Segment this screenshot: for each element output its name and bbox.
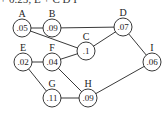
node-value: .02 <box>17 57 28 67</box>
node-label: I <box>150 42 153 53</box>
node-label: B <box>49 8 56 19</box>
node-label: C <box>83 31 90 42</box>
node-value: .11 <box>47 93 58 103</box>
node-value: .1 <box>83 46 90 56</box>
node-label: F <box>49 42 55 53</box>
node-label: A <box>18 8 26 19</box>
node-label: E <box>20 42 26 53</box>
node-C: .1C <box>77 31 95 60</box>
node-E: .02E <box>14 42 32 71</box>
node-value: .05 <box>16 23 28 33</box>
node-G: .11G <box>43 78 61 107</box>
node-value: .09 <box>46 23 58 33</box>
node-label: D <box>119 7 126 18</box>
edge-H-I <box>88 62 152 98</box>
node-value: .04 <box>46 57 58 67</box>
node-I: .06I <box>143 42 161 71</box>
node-value: .06 <box>146 57 158 67</box>
node-F: .04F <box>43 42 61 71</box>
node-label: H <box>84 78 91 89</box>
node-label: G <box>48 78 55 89</box>
node-value: .09 <box>82 93 94 103</box>
node-value: .07 <box>117 22 129 32</box>
node-D: .07D <box>114 7 132 36</box>
network-graph: .05A.09B.1C.07D.02E.04F.11G.09H.06I <box>0 0 165 114</box>
edge-B-D <box>52 27 123 28</box>
node-H: .09H <box>79 78 97 107</box>
node-B: .09B <box>43 8 61 37</box>
nodes: .05A.09B.1C.07D.02E.04F.11G.09H.06I <box>13 7 161 107</box>
node-A: .05A <box>13 8 31 37</box>
